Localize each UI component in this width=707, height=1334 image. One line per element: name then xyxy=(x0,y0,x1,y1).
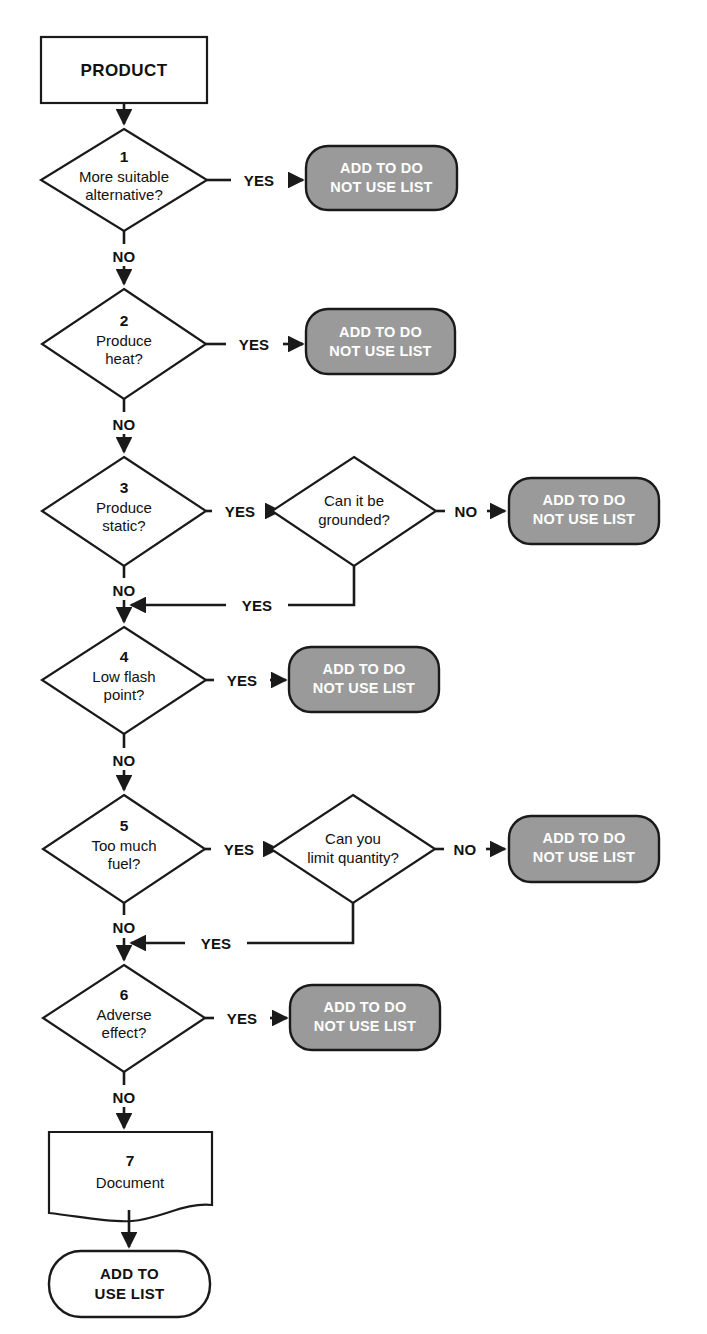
branch-label-step2-yes: YES xyxy=(239,336,270,353)
branch-label-step5-sub-yes: YES xyxy=(201,935,232,952)
reject-terminal-4-line1: ADD TO DO xyxy=(323,661,406,677)
reject-terminal-1-line2: NOT USE LIST xyxy=(330,179,432,195)
node-decision-5-sub-limit[interactable]: Can you limit quantity? xyxy=(271,795,435,903)
branch-label-step3-sub-no: NO xyxy=(455,503,478,520)
node-document-7[interactable]: 7 Document xyxy=(49,1132,212,1221)
branch-label-step1-no: NO xyxy=(113,248,136,265)
branch-label-step3-no: NO xyxy=(113,582,136,599)
reject-terminal-2-line1: ADD TO DO xyxy=(339,324,422,340)
node-accept-terminal[interactable]: ADD TO USE LIST xyxy=(49,1251,210,1317)
flowchart-canvas: PRODUCT 1 More suitable alternative? YES… xyxy=(0,0,707,1334)
branch-label-step4-yes: YES xyxy=(227,672,258,689)
decision-4-number: 4 xyxy=(120,648,129,665)
node-decision-4[interactable]: 4 Low flash point? xyxy=(42,627,206,734)
decision-3-sub-question-line1: Can it be xyxy=(324,492,384,509)
decision-4-question-line1: Low flash xyxy=(92,668,155,685)
decision-1-number: 1 xyxy=(120,148,129,165)
decision-5-question-line2: fuel? xyxy=(108,855,141,872)
node-reject-terminal-3[interactable]: ADD TO DO NOT USE LIST xyxy=(509,478,659,544)
accept-terminal-line1: ADD TO xyxy=(100,1265,159,1282)
decision-5-sub-question-line1: Can you xyxy=(325,830,381,847)
node-decision-2[interactable]: 2 Produce heat? xyxy=(42,289,206,399)
decision-5-sub-question-line2: limit quantity? xyxy=(307,849,399,866)
node-reject-terminal-2[interactable]: ADD TO DO NOT USE LIST xyxy=(306,309,455,374)
decision-3-sub-question-line2: grounded? xyxy=(318,511,390,528)
node-decision-6[interactable]: 6 Adverse effect? xyxy=(43,965,205,1072)
branch-label-step3-sub-yes: YES xyxy=(242,597,273,614)
reject-terminal-2-line2: NOT USE LIST xyxy=(329,343,431,359)
flowchart-svg: PRODUCT 1 More suitable alternative? YES… xyxy=(0,0,707,1334)
document-7-label: Document xyxy=(96,1174,165,1191)
decision-2-number: 2 xyxy=(120,312,129,329)
node-reject-terminal-1[interactable]: ADD TO DO NOT USE LIST xyxy=(306,146,457,210)
branch-label-step5-no: NO xyxy=(113,919,136,936)
document-7-number: 7 xyxy=(126,1152,135,1169)
decision-4-question-line2: point? xyxy=(104,686,145,703)
node-reject-terminal-5[interactable]: ADD TO DO NOT USE LIST xyxy=(509,816,659,882)
decision-3-question-line1: Produce xyxy=(96,499,152,516)
node-reject-terminal-6[interactable]: ADD TO DO NOT USE LIST xyxy=(290,985,440,1050)
reject-terminal-5-line1: ADD TO DO xyxy=(543,830,626,846)
node-decision-1[interactable]: 1 More suitable alternative? xyxy=(41,129,207,231)
product-label: PRODUCT xyxy=(81,61,168,80)
branch-label-step4-no: NO xyxy=(113,752,136,769)
reject-terminal-3-line2: NOT USE LIST xyxy=(533,511,635,527)
branch-label-step1-yes: YES xyxy=(244,172,275,189)
decision-6-question-line2: effect? xyxy=(102,1024,147,1041)
reject-terminal-6-line1: ADD TO DO xyxy=(324,999,407,1015)
decision-3-number: 3 xyxy=(120,479,129,496)
node-decision-5[interactable]: 5 Too much fuel? xyxy=(43,795,205,903)
decision-3-question-line2: static? xyxy=(102,517,145,534)
decision-5-number: 5 xyxy=(120,817,129,834)
branch-label-step5-yes: YES xyxy=(224,841,255,858)
decision-1-question-line2: alternative? xyxy=(85,186,163,203)
decision-5-question-line1: Too much xyxy=(91,837,156,854)
decision-6-number: 6 xyxy=(120,986,129,1003)
decision-2-question-line1: Produce xyxy=(96,332,152,349)
branch-label-step5-sub-no: NO xyxy=(454,841,477,858)
branch-label-step6-no: NO xyxy=(113,1089,136,1106)
decision-1-question-line1: More suitable xyxy=(79,168,169,185)
node-reject-terminal-4[interactable]: ADD TO DO NOT USE LIST xyxy=(289,647,439,712)
reject-terminal-3-line1: ADD TO DO xyxy=(543,492,626,508)
branch-label-step2-no: NO xyxy=(113,416,136,433)
reject-terminal-1-line1: ADD TO DO xyxy=(340,160,423,176)
decision-6-question-line1: Adverse xyxy=(96,1006,151,1023)
reject-terminal-5-line2: NOT USE LIST xyxy=(533,849,635,865)
node-product-start[interactable]: PRODUCT xyxy=(41,37,207,103)
reject-terminal-1-shape xyxy=(306,146,457,210)
branch-label-step6-yes: YES xyxy=(227,1010,258,1027)
reject-terminal-6-line2: NOT USE LIST xyxy=(314,1018,416,1034)
reject-terminal-2-shape xyxy=(306,309,455,374)
reject-terminal-4-line2: NOT USE LIST xyxy=(313,680,415,696)
node-decision-3[interactable]: 3 Produce static? xyxy=(42,457,206,566)
accept-terminal-line2: USE LIST xyxy=(95,1285,165,1302)
node-decision-3-sub-grounded[interactable]: Can it be grounded? xyxy=(272,457,436,566)
decision-2-question-line2: heat? xyxy=(105,350,143,367)
accept-terminal-shape xyxy=(49,1251,210,1317)
branch-label-step3-yes: YES xyxy=(225,503,256,520)
